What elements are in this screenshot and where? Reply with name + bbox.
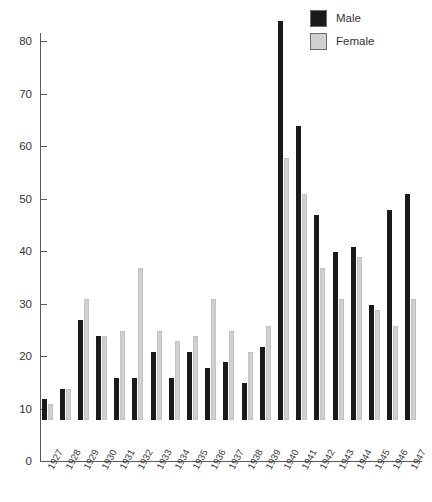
bar-female-1942 bbox=[320, 268, 325, 420]
y-tick-label-0: 0 bbox=[26, 455, 32, 467]
bar-female-1940 bbox=[284, 158, 289, 421]
bar-group-1947 bbox=[405, 0, 420, 420]
bar-male-1930 bbox=[96, 336, 101, 420]
bar-male-1928 bbox=[60, 389, 65, 421]
bar-group-1935 bbox=[187, 0, 202, 420]
y-tick-label-30: 30 bbox=[19, 298, 32, 310]
y-tick-label-70: 70 bbox=[19, 88, 32, 100]
bar-female-1930 bbox=[102, 336, 107, 420]
bar-group-1931 bbox=[114, 0, 129, 420]
bar-group-1939 bbox=[260, 0, 275, 420]
bar-group-1946 bbox=[387, 0, 402, 420]
bar-chart: Male Female 01020304050607080 1927192819… bbox=[0, 0, 432, 502]
bar-male-1945 bbox=[369, 305, 374, 421]
bar-female-1943 bbox=[339, 299, 344, 420]
bar-male-1943 bbox=[333, 252, 338, 420]
y-axis-tick-labels: 01020304050607080 bbox=[0, 0, 36, 502]
bar-male-1931 bbox=[114, 378, 119, 420]
bar-group-1932 bbox=[132, 0, 147, 420]
y-tick-label-80: 80 bbox=[19, 35, 32, 47]
bar-female-1944 bbox=[357, 257, 362, 420]
bar-male-1938 bbox=[242, 383, 247, 420]
bar-male-1946 bbox=[387, 210, 392, 420]
bar-female-1935 bbox=[193, 336, 198, 420]
y-tick-label-60: 60 bbox=[19, 140, 32, 152]
bar-group-1928 bbox=[60, 0, 75, 420]
bar-group-1941 bbox=[296, 0, 311, 420]
bar-male-1942 bbox=[314, 215, 319, 420]
bar-female-1945 bbox=[375, 310, 380, 420]
bar-female-1934 bbox=[175, 341, 180, 420]
bar-male-1927 bbox=[42, 399, 47, 420]
bar-female-1929 bbox=[84, 299, 89, 420]
bar-female-1938 bbox=[248, 352, 253, 420]
bar-female-1936 bbox=[211, 299, 216, 420]
bar-male-1939 bbox=[260, 347, 265, 421]
bar-male-1935 bbox=[187, 352, 192, 420]
bar-male-1929 bbox=[78, 320, 83, 420]
bar-male-1947 bbox=[405, 194, 410, 420]
bar-female-1933 bbox=[157, 331, 162, 420]
bar-female-1931 bbox=[120, 331, 125, 420]
bar-group-1943 bbox=[333, 0, 348, 420]
bar-group-1927 bbox=[42, 0, 57, 420]
bar-female-1928 bbox=[66, 389, 71, 421]
bar-group-1937 bbox=[223, 0, 238, 420]
bar-male-1940 bbox=[278, 21, 283, 420]
bar-group-1942 bbox=[314, 0, 329, 420]
y-tick-label-40: 40 bbox=[19, 245, 32, 257]
bar-female-1941 bbox=[302, 194, 307, 420]
y-tick-label-10: 10 bbox=[19, 403, 32, 415]
bar-group-1938 bbox=[242, 0, 257, 420]
bar-female-1927 bbox=[48, 404, 53, 420]
bar-group-1944 bbox=[351, 0, 366, 420]
bar-group-1933 bbox=[151, 0, 166, 420]
bar-group-1930 bbox=[96, 0, 111, 420]
bar-male-1932 bbox=[132, 378, 137, 420]
bar-group-1929 bbox=[78, 0, 93, 420]
bar-male-1944 bbox=[351, 247, 356, 420]
bar-group-1936 bbox=[205, 0, 220, 420]
y-tick-label-50: 50 bbox=[19, 193, 32, 205]
bar-group-1945 bbox=[369, 0, 384, 420]
bars-area bbox=[40, 0, 422, 461]
bar-female-1939 bbox=[266, 326, 271, 421]
bar-male-1934 bbox=[169, 378, 174, 420]
bar-group-1940 bbox=[278, 0, 293, 420]
bar-male-1941 bbox=[296, 126, 301, 420]
bar-female-1937 bbox=[229, 331, 234, 420]
bar-group-1934 bbox=[169, 0, 184, 420]
bar-male-1937 bbox=[223, 362, 228, 420]
y-tick-label-20: 20 bbox=[19, 350, 32, 362]
bar-female-1932 bbox=[138, 268, 143, 420]
bar-female-1947 bbox=[411, 299, 416, 420]
bar-male-1936 bbox=[205, 368, 210, 421]
bar-female-1946 bbox=[393, 326, 398, 421]
bar-male-1933 bbox=[151, 352, 156, 420]
